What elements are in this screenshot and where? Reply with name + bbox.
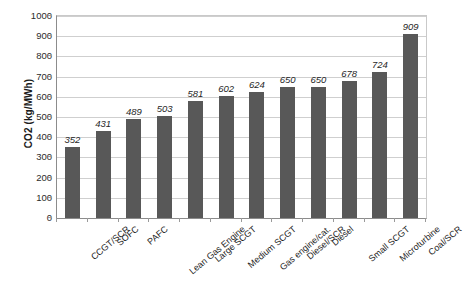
y-axis-tick-label: 900 [18, 30, 52, 41]
y-axis-tick-mark [48, 96, 52, 97]
y-axis-tick-label: 600 [18, 90, 52, 101]
y-axis-tick-mark [48, 136, 52, 137]
x-axis-tick-label: PAFC [145, 224, 169, 247]
x-axis-tick-label: Lean Gas Engine [187, 224, 247, 276]
y-axis-tick-label: 100 [18, 191, 52, 202]
y-axis-tick-labels: 01002003004005006007008009001000 [18, 15, 52, 217]
bar[interactable] [65, 147, 80, 218]
bar[interactable] [311, 87, 326, 218]
y-axis-tick-label: 500 [18, 111, 52, 122]
bar-value-label: 724 [363, 59, 397, 70]
bar[interactable] [96, 131, 111, 218]
bar[interactable] [126, 119, 141, 218]
y-axis-tick-mark [48, 197, 52, 198]
bar-value-label: 650 [271, 74, 305, 85]
bar-value-label: 352 [55, 134, 89, 145]
y-axis-tick-mark [48, 76, 52, 77]
y-axis-tick-mark [48, 156, 52, 157]
bar-value-label: 602 [209, 83, 243, 94]
bar-value-label: 909 [394, 21, 428, 32]
y-axis-tick-mark [48, 15, 52, 16]
bar[interactable] [219, 96, 234, 218]
y-axis-tick-label: 800 [18, 50, 52, 61]
y-axis-tick-label: 0 [18, 212, 52, 223]
x-axis-tick-labels: CCGT/SCRSOFCPAFCLean Gas EngineLarge SCG… [0, 222, 432, 288]
bar[interactable] [403, 34, 418, 218]
bar[interactable] [280, 87, 295, 218]
y-axis-tick-label: 300 [18, 151, 52, 162]
y-axis-tick-label: 400 [18, 131, 52, 142]
y-axis-tick-mark [48, 177, 52, 178]
bar[interactable] [372, 72, 387, 218]
bar-value-label: 581 [178, 88, 212, 99]
bar[interactable] [188, 101, 203, 218]
bar[interactable] [342, 81, 357, 218]
y-axis-tick-mark [48, 55, 52, 56]
bar[interactable] [249, 92, 264, 218]
bar-value-label: 431 [86, 118, 120, 129]
bar-value-label: 650 [301, 74, 335, 85]
bars-layer: 352431489503581602624650650678724909 [57, 16, 426, 218]
y-axis-tick-mark [48, 116, 52, 117]
bar-value-label: 503 [148, 103, 182, 114]
y-axis-tick-label: 700 [18, 70, 52, 81]
x-axis-tick-label: Diesel [330, 224, 356, 248]
bar-value-label: 489 [117, 106, 151, 117]
y-axis-tick-mark [48, 217, 52, 218]
y-axis-tick-label: 1000 [18, 10, 52, 21]
plot-area: 352431489503581602624650650678724909 [56, 15, 427, 219]
bar-value-label: 624 [240, 79, 274, 90]
bar[interactable] [157, 116, 172, 218]
bar-value-label: 678 [332, 68, 366, 79]
y-axis-tick-label: 200 [18, 171, 52, 182]
y-axis-tick-mark [48, 35, 52, 36]
